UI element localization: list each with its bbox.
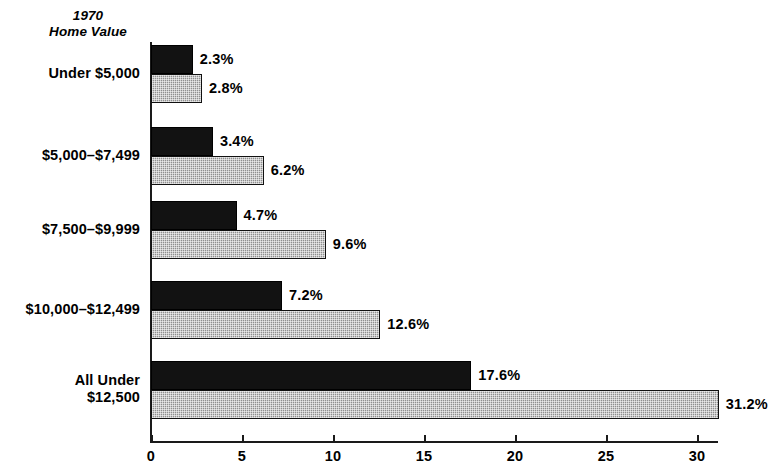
bar-value-label: 4.7% [244, 207, 278, 223]
bar-light [151, 390, 719, 419]
bar-dark [151, 201, 237, 230]
x-tick-label: 20 [507, 448, 524, 464]
bar-value-label: 7.2% [289, 287, 323, 303]
bar-chart: 1970 Home Value Under $5,000$5,000–$7,49… [0, 0, 782, 476]
x-tick-label: 5 [238, 448, 246, 464]
x-tick-label: 10 [325, 448, 342, 464]
bar-dark [151, 281, 282, 310]
x-tick [606, 435, 608, 443]
x-tick [333, 435, 335, 443]
x-tick-label: 15 [416, 448, 433, 464]
chart-corner-title: 1970 Home Value [36, 8, 140, 40]
x-axis-line [150, 441, 718, 443]
bar-value-label: 2.3% [200, 51, 234, 67]
bar-light [151, 74, 202, 103]
category-label: $5,000–$7,499 [0, 147, 140, 164]
bar-value-label: 2.8% [209, 80, 243, 96]
category-label: $10,000–$12,499 [0, 301, 140, 318]
bar-dark [151, 45, 193, 74]
category-label: All Under $12,500 [0, 372, 140, 406]
bar-value-label: 12.6% [387, 316, 429, 332]
bar-value-label: 6.2% [271, 162, 305, 178]
x-tick-label: 30 [689, 448, 706, 464]
bar-value-label: 3.4% [220, 133, 254, 149]
category-label: $7,500–$9,999 [0, 221, 140, 238]
bar-value-label: 31.2% [726, 396, 768, 412]
x-tick [424, 435, 426, 443]
bar-value-label: 17.6% [478, 367, 520, 383]
bar-dark [151, 361, 471, 390]
x-tick-label: 0 [147, 448, 155, 464]
x-tick [242, 435, 244, 443]
bar-dark [151, 127, 213, 156]
bar-light [151, 230, 326, 259]
chart-title-year: 1970 [36, 8, 140, 24]
chart-title-subject: Home Value [36, 24, 140, 40]
bar-value-label: 9.6% [333, 236, 367, 252]
bar-light [151, 310, 380, 339]
bar-light [151, 156, 264, 185]
x-tick-label: 25 [598, 448, 615, 464]
x-tick [515, 435, 517, 443]
x-tick [151, 435, 153, 443]
category-label: Under $5,000 [0, 65, 140, 82]
x-tick [697, 435, 699, 443]
